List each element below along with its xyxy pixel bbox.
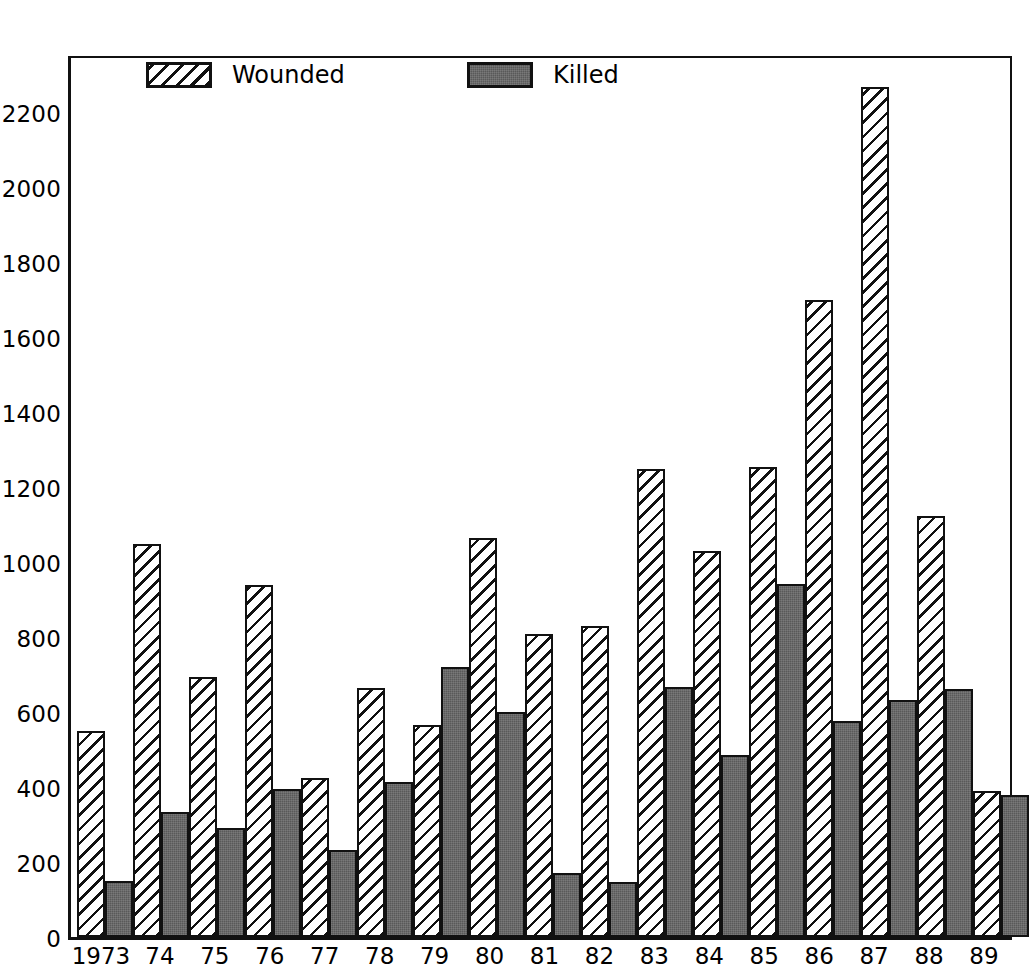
x-axis-tick-label: 85 bbox=[733, 945, 795, 968]
bar-wounded[interactable] bbox=[805, 300, 833, 937]
bar-killed[interactable] bbox=[497, 712, 525, 937]
bar-killed[interactable] bbox=[161, 812, 189, 937]
bar-group bbox=[245, 53, 301, 937]
bar-group bbox=[413, 53, 469, 937]
solid-swatch-icon bbox=[467, 62, 533, 88]
bar-wounded[interactable] bbox=[861, 87, 889, 937]
bar-wounded[interactable] bbox=[301, 778, 329, 937]
bar-wounded[interactable] bbox=[581, 626, 609, 937]
bar-wounded[interactable] bbox=[77, 731, 105, 937]
legend-item-killed[interactable]: Killed bbox=[467, 62, 619, 88]
x-axis-tick: 1973 bbox=[74, 941, 129, 971]
bar-killed[interactable] bbox=[721, 755, 749, 937]
bar-group bbox=[693, 53, 749, 937]
bar-killed[interactable] bbox=[273, 789, 301, 937]
x-axis-tick-label: 88 bbox=[898, 945, 960, 968]
bar-wounded[interactable] bbox=[413, 725, 441, 937]
bar-killed[interactable] bbox=[105, 881, 133, 937]
bar-killed[interactable] bbox=[665, 687, 693, 937]
y-axis-tick-label: 2000 bbox=[2, 178, 68, 201]
bar-wounded[interactable] bbox=[917, 516, 945, 937]
hatched-swatch-icon bbox=[146, 62, 212, 88]
x-axis-tick-label: 89 bbox=[953, 945, 1015, 968]
x-axis-tick: 83 bbox=[623, 941, 678, 971]
bar-killed[interactable] bbox=[833, 721, 861, 938]
bar-wounded[interactable] bbox=[133, 544, 161, 937]
plot-area bbox=[68, 56, 1012, 940]
y-axis-tick-label: 1000 bbox=[2, 553, 68, 576]
bar-chart: 0200400600800100012001400160018002000220… bbox=[0, 0, 1030, 971]
x-axis-tick: 79 bbox=[404, 941, 459, 971]
x-axis: 197374757677787980818283848586878889 bbox=[68, 941, 1012, 971]
x-axis-tick: 77 bbox=[294, 941, 349, 971]
bar-killed[interactable] bbox=[889, 700, 917, 937]
x-axis-tick: 80 bbox=[459, 941, 514, 971]
bar-wounded[interactable] bbox=[973, 791, 1001, 937]
y-axis-tick-label: 800 bbox=[17, 628, 69, 651]
y-axis-tick-label: 400 bbox=[17, 778, 69, 801]
x-axis-tick-label: 84 bbox=[678, 945, 740, 968]
x-axis-tick-label: 86 bbox=[788, 945, 850, 968]
x-axis-tick: 86 bbox=[788, 941, 843, 971]
bar-group bbox=[973, 53, 1029, 937]
bar-killed[interactable] bbox=[1001, 795, 1029, 937]
x-axis-tick: 85 bbox=[733, 941, 788, 971]
y-axis-tick-label: 200 bbox=[17, 853, 69, 876]
bar-killed[interactable] bbox=[441, 667, 469, 937]
x-axis-tick-label: 81 bbox=[514, 945, 576, 968]
x-axis-tick-label: 87 bbox=[843, 945, 905, 968]
x-axis-tick-label: 82 bbox=[568, 945, 630, 968]
bar-killed[interactable] bbox=[553, 873, 581, 937]
x-axis-tick: 74 bbox=[129, 941, 184, 971]
bar-wounded[interactable] bbox=[357, 688, 385, 937]
bar-wounded[interactable] bbox=[469, 538, 497, 937]
bar-killed[interactable] bbox=[777, 584, 805, 937]
bar-group bbox=[469, 53, 525, 937]
x-axis-tick: 89 bbox=[953, 941, 1008, 971]
x-axis-tick: 82 bbox=[568, 941, 623, 971]
bar-group bbox=[357, 53, 413, 937]
y-axis-tick-label: 2200 bbox=[2, 103, 68, 126]
bar-wounded[interactable] bbox=[637, 469, 665, 937]
bar-wounded[interactable] bbox=[245, 585, 273, 937]
bar-group bbox=[301, 53, 357, 937]
x-axis-tick-label: 80 bbox=[459, 945, 521, 968]
bar-killed[interactable] bbox=[385, 782, 413, 937]
bar-killed[interactable] bbox=[609, 882, 637, 937]
bar-killed[interactable] bbox=[217, 828, 245, 937]
bar-group bbox=[861, 53, 917, 937]
bar-killed[interactable] bbox=[329, 850, 357, 937]
x-axis-tick-label: 76 bbox=[239, 945, 301, 968]
bar-group bbox=[749, 53, 805, 937]
y-axis-tick-label: 1400 bbox=[2, 403, 68, 426]
x-axis-tick: 88 bbox=[898, 941, 953, 971]
x-axis-tick-label: 78 bbox=[349, 945, 411, 968]
y-axis-tick-label: 1200 bbox=[2, 478, 68, 501]
y-axis-tick-label: 1600 bbox=[2, 328, 68, 351]
bar-wounded[interactable] bbox=[525, 634, 553, 937]
x-axis-tick: 84 bbox=[678, 941, 733, 971]
legend-label-killed: Killed bbox=[553, 63, 619, 87]
bar-group bbox=[77, 53, 133, 937]
y-axis-tick-label: 1800 bbox=[2, 253, 68, 276]
bar-wounded[interactable] bbox=[189, 677, 217, 937]
bar-wounded[interactable] bbox=[693, 551, 721, 937]
bar-wounded[interactable] bbox=[749, 467, 777, 937]
bar-group bbox=[805, 53, 861, 937]
legend-item-wounded[interactable]: Wounded bbox=[146, 62, 345, 88]
x-axis-tick: 75 bbox=[184, 941, 239, 971]
bar-group bbox=[917, 53, 973, 937]
bar-group bbox=[133, 53, 189, 937]
bar-series-container bbox=[71, 53, 1010, 937]
y-axis-tick-label: 0 bbox=[46, 928, 68, 951]
bar-group bbox=[189, 53, 245, 937]
y-axis: 0200400600800100012001400160018002000220… bbox=[0, 0, 68, 971]
y-axis-tick-label: 600 bbox=[17, 703, 69, 726]
x-axis-tick-label: 1973 bbox=[70, 945, 132, 968]
x-axis-tick-label: 75 bbox=[184, 945, 246, 968]
x-axis-tick: 81 bbox=[514, 941, 569, 971]
bar-group bbox=[637, 53, 693, 937]
x-axis-tick-label: 83 bbox=[623, 945, 685, 968]
bar-killed[interactable] bbox=[945, 689, 973, 937]
bar-group bbox=[581, 53, 637, 937]
